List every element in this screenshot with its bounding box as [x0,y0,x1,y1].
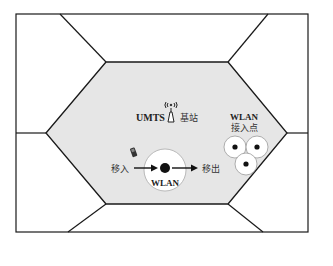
move-in-label: 移入 [111,163,129,174]
wlan-center-label: WLAN [151,178,180,188]
wlan-ap-title: WLAN [230,112,259,122]
access-point-dot [232,144,237,149]
access-point-dot [243,161,248,166]
base-station-label: 基站 [180,112,198,123]
umts-wlan-cell-diagram: UMTS 基站 WLAN 接入点 WLAN 移入 移出 [0,0,333,266]
umts-label: UMTS [136,112,165,123]
wlan-access-point-dot [160,163,170,173]
access-point-dot [254,144,259,149]
move-out-label: 移出 [202,163,220,174]
wlan-ap-subtitle: 接入点 [231,122,258,133]
